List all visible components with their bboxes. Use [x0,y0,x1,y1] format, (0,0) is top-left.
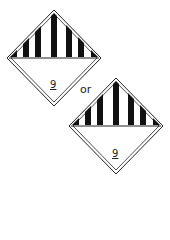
class-number-label-1: 9 [50,80,56,90]
separator-text: or [80,84,91,95]
class-number-label-2: 9 [112,149,118,159]
